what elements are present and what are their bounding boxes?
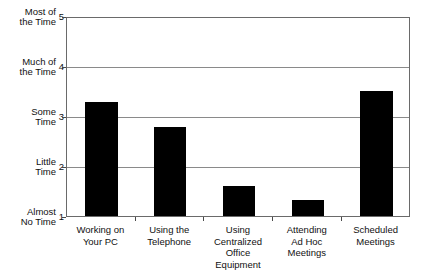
y-axis-text-label: Some Time: [0, 107, 56, 128]
x-axis-tick-mark: [135, 217, 136, 221]
x-axis-labels: Working on Your PC Using the Telephone U…: [66, 224, 410, 279]
x-axis-tick-mark: [341, 217, 342, 221]
plot-area: [66, 17, 410, 217]
bar-chart: Most of the Time Much of the Time Some T…: [0, 0, 423, 279]
y-axis-text-label: Almost No Time: [0, 207, 56, 228]
bar: [223, 186, 255, 216]
y-axis-text-label: Little Time: [0, 157, 56, 178]
y-axis-text-label: Much of the Time: [0, 57, 56, 78]
x-axis-label: Working on Your PC: [66, 224, 135, 247]
x-axis-tick-mark: [272, 217, 273, 221]
x-axis-label: Using the Telephone: [135, 224, 204, 247]
x-axis-tick-mark: [203, 217, 204, 221]
x-axis-label: Using Centralized Office Equipment: [204, 224, 273, 270]
y-axis-text-labels: Most of the Time Much of the Time Some T…: [0, 0, 56, 279]
y-axis-tick-labels: 5 4 3 2 1: [56, 0, 66, 279]
bar-series: [67, 18, 409, 216]
bar: [292, 200, 324, 216]
bar: [85, 102, 117, 216]
bar: [360, 91, 392, 216]
y-axis-tick-mark: [62, 217, 66, 218]
x-axis-label: Scheduled Meetings: [341, 224, 410, 247]
bar: [154, 127, 186, 216]
x-axis-label: Attending Ad Hoc Meetings: [272, 224, 341, 259]
y-axis-text-label: Most of the Time: [0, 7, 56, 28]
